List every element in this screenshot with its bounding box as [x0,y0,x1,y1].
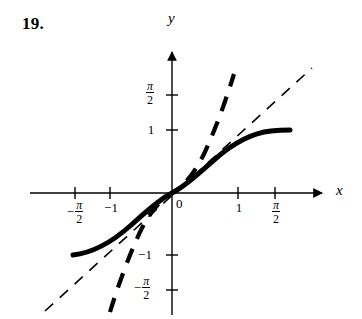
x-tick-label-neg-pi-over-2: −π2 [59,199,91,225]
y-axis-label: y [168,10,175,27]
fraction-denominator: 2 [75,212,83,225]
fraction-denominator: 2 [146,93,154,106]
x-axis-label: x [336,182,343,199]
y-tick-label-pi-over-2: π2 [140,80,160,106]
fraction-denominator: 2 [142,288,150,301]
fraction-numerator: π [146,80,154,93]
fraction-pi-over-2: π2 [142,275,150,301]
fraction-pi-over-2: π2 [272,199,280,225]
origin-label: 0 [176,196,183,212]
exercise-number: 19. [22,14,44,34]
fraction-pi-over-2: π2 [146,80,154,106]
fraction-numerator: π [272,199,280,212]
x-tick-label-neg-one: −1 [100,200,122,216]
y-tick-label-neg-pi-over-2: −π2 [126,275,158,301]
minus-sign: − [134,280,142,296]
fraction-denominator: 2 [272,212,280,225]
y-tick-label-one: 1 [144,122,158,138]
x-tick-label-pi-over-2: π2 [266,199,286,225]
minus-sign: − [67,204,75,220]
fraction-numerator: π [142,275,150,288]
x-tick-label-one: 1 [232,200,246,216]
graph-figure [0,0,362,319]
fraction-pi-over-2: π2 [75,199,83,225]
y-tick-label-neg-one: −1 [134,247,156,263]
fraction-numerator: π [75,199,83,212]
